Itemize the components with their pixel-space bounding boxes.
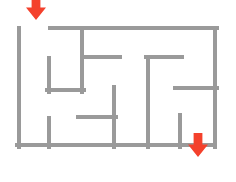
maze-wall-inner-vertical-right-lower xyxy=(178,113,182,149)
maze-wall-inner-horizontal-lower-left xyxy=(76,115,118,119)
entry-arrow xyxy=(26,0,46,20)
exit-arrow xyxy=(188,133,208,157)
maze-drawing xyxy=(0,0,236,182)
maze-wall-inner-horizontal-mid-left xyxy=(80,55,122,59)
maze-wall-inner-horizontal-col1-bottom xyxy=(45,88,86,92)
maze-wall-border-top-right-of-entry xyxy=(48,26,219,30)
maze-wall-inner-horizontal-right-top xyxy=(144,55,184,59)
maze-wall-border-left xyxy=(17,26,21,149)
maze-wall-inner-horizontal-right-mid xyxy=(173,86,219,90)
exit-arrow-glyph xyxy=(188,133,208,157)
maze-wall-inner-vertical-col2-upper xyxy=(80,26,84,94)
maze-wall-inner-vertical-right-block xyxy=(146,55,150,149)
maze-wall-group xyxy=(15,26,219,149)
maze-figure xyxy=(0,0,236,182)
entry-arrow-glyph xyxy=(26,0,46,20)
maze-wall-inner-vertical-col1-lower xyxy=(47,116,51,149)
